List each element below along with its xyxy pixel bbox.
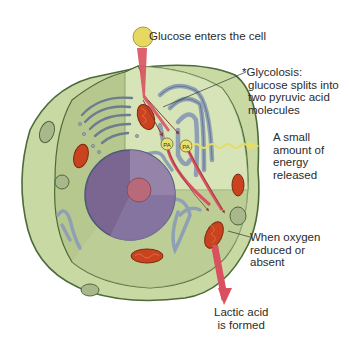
oxygen-label: When oxygen reduced or absent	[250, 231, 320, 269]
nucleus	[85, 150, 175, 241]
glycolysis-label: *Glycolosis: glucose splits into two pyr…	[242, 66, 339, 116]
lactic-acid-label: Lactic acid is formed	[214, 306, 268, 331]
glucose-label: Glucose enters the cell	[149, 30, 266, 43]
svg-text:PA: PA	[182, 144, 190, 150]
energy-label: A small amount of energy released	[273, 131, 324, 181]
nucleolus	[127, 178, 151, 202]
cell-diagram: PA PA Glucose enters the cell *Glycolosi…	[0, 0, 350, 343]
svg-text:PA: PA	[163, 142, 171, 148]
